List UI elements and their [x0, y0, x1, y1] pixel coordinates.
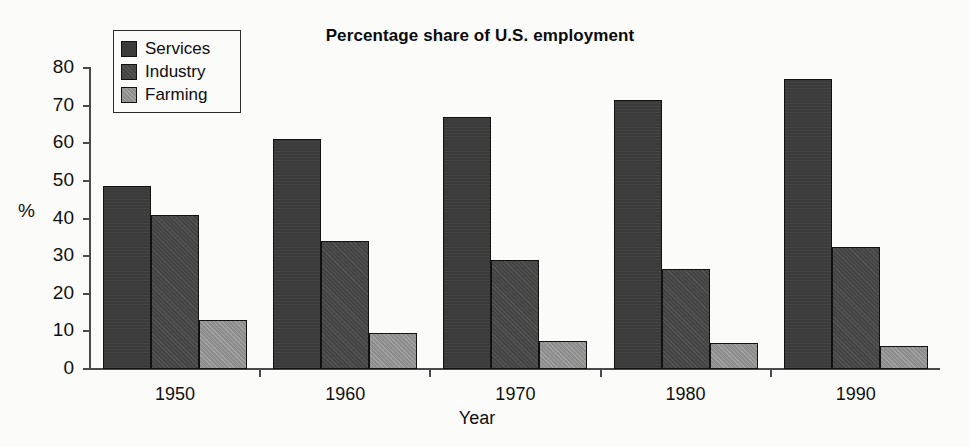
y-tick-label-10: 10 [53, 319, 74, 341]
bar-industry-1990 [832, 247, 880, 369]
bar-services-1950 [103, 186, 151, 369]
y-tick-label-30: 30 [53, 244, 74, 266]
legend-label-industry: Industry [145, 63, 205, 80]
bar-farming-1990 [880, 346, 928, 369]
chart-container: Percentage share of U.S. employment % Ye… [0, 0, 970, 447]
legend-swatch-industry-icon [121, 64, 137, 80]
bar-farming-1960 [369, 333, 417, 369]
bar-services-1990 [784, 79, 832, 369]
chart-legend: Services Industry Farming [113, 30, 241, 113]
chart-title-text: Percentage share of U.S. employment [326, 26, 635, 45]
bar-industry-1950 [151, 215, 199, 369]
x-tick-label-1960: 1960 [325, 384, 365, 405]
bar-industry-1960 [321, 241, 369, 369]
bar-farming-1970 [539, 341, 587, 369]
y-tick-label-70: 70 [53, 94, 74, 116]
bar-services-1970 [443, 117, 491, 369]
x-tick-label-1970: 1970 [495, 384, 535, 405]
y-tick-label-60: 60 [53, 131, 74, 153]
y-tick-label-0: 0 [63, 357, 74, 379]
x-tick-label-1980: 1980 [666, 384, 706, 405]
bar-services-1960 [273, 139, 321, 369]
x-tick-label-1990: 1990 [836, 384, 876, 405]
x-axis-label: Year [0, 408, 970, 429]
legend-item-farming: Farming [121, 83, 232, 106]
y-tick-label-80: 80 [53, 56, 74, 78]
bar-farming-1980 [710, 343, 758, 369]
y-tick-label-50: 50 [53, 169, 74, 191]
legend-item-industry: Industry [121, 60, 232, 83]
bar-industry-1980 [662, 269, 710, 369]
bar-farming-1950 [199, 320, 247, 369]
y-tick-label-40: 40 [53, 207, 74, 229]
y-axis-label: % [18, 200, 35, 222]
y-tick-label-20: 20 [53, 282, 74, 304]
legend-label-services: Services [145, 40, 210, 57]
legend-swatch-services-icon [121, 41, 137, 57]
legend-label-farming: Farming [145, 86, 207, 103]
x-axis-label-text: Year [459, 408, 495, 428]
bar-services-1980 [614, 100, 662, 369]
bar-industry-1970 [491, 260, 539, 369]
legend-swatch-farming-icon [121, 87, 137, 103]
legend-item-services: Services [121, 37, 232, 60]
x-tick-label-1950: 1950 [155, 384, 195, 405]
